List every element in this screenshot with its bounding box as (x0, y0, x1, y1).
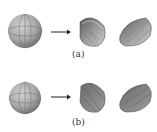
hollow-hemisphere-left (80, 18, 105, 46)
sphere-b (9, 82, 41, 114)
solid-hemisphere-left (80, 83, 105, 112)
panel-a (8, 14, 151, 48)
figure-canvas (0, 0, 157, 132)
hollow-hemisphere-right (120, 18, 152, 46)
arrow-b-icon (51, 95, 71, 100)
panel-a-label: (a) (72, 49, 84, 59)
arrow-a-icon (51, 30, 71, 35)
panel-b (9, 82, 151, 114)
panel-b-label: (b) (72, 117, 85, 127)
sphere-a (8, 14, 42, 48)
solid-hemisphere-right (120, 84, 152, 112)
